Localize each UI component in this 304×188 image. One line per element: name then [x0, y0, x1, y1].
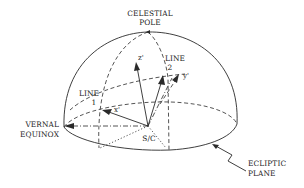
x-axis-arrowhead [102, 109, 112, 115]
pole-marker [146, 30, 150, 34]
label-spacecraft: S/C [142, 134, 156, 143]
label-vernal-1: VERNAL [24, 120, 59, 129]
vernal-equinox-arrowhead [64, 123, 74, 129]
ecliptic-leader [214, 145, 246, 171]
x-axis-arrow [106, 111, 148, 126]
label-vernal-2: EQUINOX [20, 130, 60, 139]
label-line2-1: LINE [165, 54, 185, 63]
label-x-axis: x' [114, 106, 120, 114]
label-line2-2: 2 [168, 63, 173, 72]
label-celestial-pole-1: CELESTIAL [127, 9, 172, 18]
ecliptic-leader-arrowhead [212, 144, 219, 149]
z-axis-arrow [137, 67, 148, 126]
z-axis-arrowhead [134, 62, 140, 71]
line2-arrow [148, 80, 162, 126]
label-celestial-pole-2: POLE [139, 18, 161, 27]
ecliptic-back-edge [64, 102, 237, 127]
label-ecliptic-2: PLANE [248, 169, 276, 178]
label-line1-1: LINE [79, 89, 99, 98]
label-ecliptic-1: ECLIPTIC [248, 159, 286, 168]
label-y-axis: y' [182, 72, 189, 80]
label-line1-2: 1 [92, 98, 97, 107]
projection-dotted-1 [100, 126, 148, 148]
label-z-axis: z' [138, 54, 144, 62]
hemisphere-outline [64, 32, 237, 127]
celestial-sphere-diagram: CELESTIAL POLE LINE 2 LINE 1 VERNAL EQUI… [0, 0, 304, 188]
